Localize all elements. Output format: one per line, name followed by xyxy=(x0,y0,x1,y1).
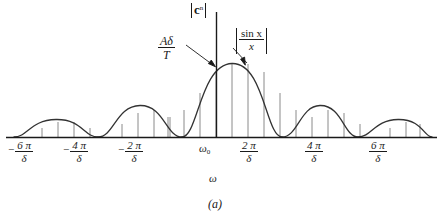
x-tick-omega-zero-symbol: ω xyxy=(199,142,207,154)
peak-label-denominator: T xyxy=(158,48,175,61)
x-tick-plus-6pi-delta: 6 π δ xyxy=(369,140,387,164)
peak-amplitude-label: Aδ T xyxy=(158,35,175,61)
x-tick-omega-zero: ω0 xyxy=(199,143,210,154)
y-axis-label: cn xyxy=(189,3,208,20)
x-tick-minus-4pi-delta-sign: − xyxy=(63,144,69,155)
x-tick-minus-6pi-delta-num: 6 π xyxy=(15,140,33,152)
abs-bar-left xyxy=(191,3,192,18)
peak-leader-arrow xyxy=(186,45,216,67)
x-tick-minus-2pi-delta-sign: − xyxy=(118,144,124,155)
x-tick-omega-zero-sub: 0 xyxy=(207,148,211,156)
envelope-abs-bar-left xyxy=(236,28,237,54)
x-tick-minus-6pi-delta-den: δ xyxy=(15,152,33,164)
x-tick-plus-6pi-delta-num: 6 π xyxy=(369,140,387,152)
x-tick-plus-2pi-delta: 2 π δ xyxy=(240,140,258,164)
envelope-label-numerator: sin x xyxy=(239,28,264,40)
x-tick-minus-4pi-delta: − 4 π δ xyxy=(63,140,88,164)
x-tick-minus-6pi-delta-sign: − xyxy=(8,144,14,155)
x-axis-label: ω xyxy=(209,173,217,184)
x-tick-plus-4pi-delta: 4 π δ xyxy=(305,140,323,164)
spectral-stems xyxy=(26,64,420,137)
sinc-envelope-curve xyxy=(14,63,432,137)
x-tick-plus-2pi-delta-den: δ xyxy=(240,152,258,164)
envelope-label: sin x x xyxy=(234,28,269,56)
figure-container: cn Aδ T sin x x − 6 π δ xyxy=(0,0,444,223)
x-tick-minus-2pi-delta: − 2 π δ xyxy=(118,140,143,164)
x-tick-minus-2pi-delta-num: 2 π xyxy=(125,140,143,152)
envelope-abs-bar-right xyxy=(266,28,267,54)
x-tick-minus-4pi-delta-num: 4 π xyxy=(70,140,88,152)
envelope-label-denominator: x xyxy=(239,40,264,52)
x-tick-minus-2pi-delta-den: δ xyxy=(125,152,143,164)
x-tick-minus-4pi-delta-den: δ xyxy=(70,152,88,164)
x-tick-plus-6pi-delta-den: δ xyxy=(369,152,387,164)
x-tick-plus-4pi-delta-den: δ xyxy=(305,152,323,164)
x-tick-plus-4pi-delta-num: 4 π xyxy=(305,140,323,152)
x-tick-minus-6pi-delta: − 6 π δ xyxy=(8,140,33,164)
peak-label-numerator: Aδ xyxy=(158,35,175,48)
spectrum-plot xyxy=(0,0,444,223)
abs-bar-right xyxy=(205,3,206,18)
x-tick-plus-2pi-delta-num: 2 π xyxy=(240,140,258,152)
y-axis-label-n: n xyxy=(200,5,204,20)
figure-caption: (a) xyxy=(208,198,222,210)
